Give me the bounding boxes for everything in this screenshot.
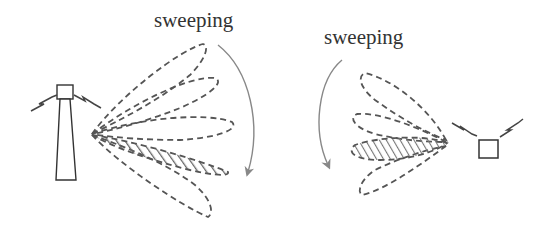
left-selected-beam (92, 135, 228, 175)
right-selected-beam (352, 138, 447, 160)
diagram-svg (0, 0, 549, 234)
left-sweep-arrow (218, 45, 254, 172)
signal-zigzag-icon (452, 119, 523, 137)
sweeping-label-left: sweeping (154, 10, 233, 31)
sweeping-label-right: sweeping (324, 27, 403, 48)
left-beam-lobes (92, 44, 233, 217)
base-station-tower-icon (56, 85, 76, 180)
user-device-icon (479, 140, 498, 158)
diagram-canvas: sweeping sweeping (0, 0, 549, 234)
right-beam-lobes (353, 73, 446, 195)
right-sweep-arrow (319, 60, 342, 165)
